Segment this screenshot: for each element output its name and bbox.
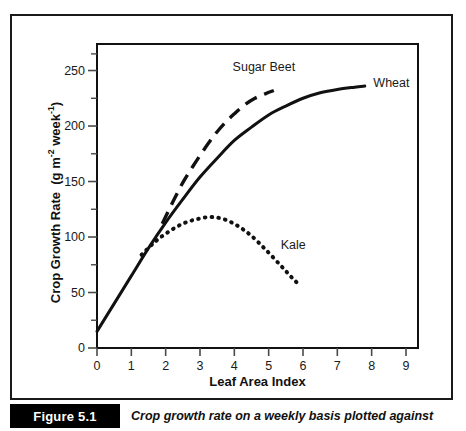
series-line-kale (142, 217, 298, 284)
data-series-group (97, 86, 365, 331)
figure-container: 050100150200250 0123456789 WheatSugar Be… (0, 0, 466, 431)
series-line-wheat (97, 86, 365, 331)
y-tick-label: 250 (35, 64, 85, 78)
figure-caption: Crop growth rate on a weekly basis plott… (131, 404, 461, 428)
x-tick-label: 2 (162, 359, 169, 373)
x-tick-label: 1 (128, 359, 135, 373)
x-tick-label: 9 (402, 359, 409, 373)
x-tick-label: 6 (300, 359, 307, 373)
x-tick-label: 4 (231, 359, 238, 373)
series-label-kale: Kale (281, 238, 306, 252)
x-axis-title: Leaf Area Index (96, 374, 419, 389)
y-units-open: (g m (48, 157, 63, 184)
y-axis-title-units: (g m-2 week-1) (48, 102, 63, 192)
y-units-close: ) (48, 102, 63, 106)
x-tick-label: 0 (94, 359, 101, 373)
axis-ticks (88, 54, 406, 356)
series-label-wheat: Wheat (373, 76, 409, 90)
x-tick-label: 5 (265, 359, 272, 373)
y-tick-label: 0 (35, 341, 85, 355)
y-axis-title-main: Crop Growth Rate (48, 192, 63, 303)
figure-number-badge: Figure 5.1 (10, 404, 120, 428)
y-units-exp1: -2 (46, 149, 56, 157)
y-units-exp2: -1 (46, 106, 56, 114)
x-tick-label: 8 (368, 359, 375, 373)
y-units-mid: week (48, 114, 63, 149)
series-label-sugar-beet: Sugar Beet (233, 60, 296, 74)
x-tick-label: 7 (334, 359, 341, 373)
y-axis-title: Crop Growth Rate (g m-2 week-1) (48, 78, 63, 328)
x-tick-label: 3 (197, 359, 204, 373)
